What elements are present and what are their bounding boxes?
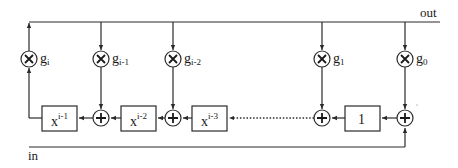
out-label: out	[420, 5, 437, 20]
multiplier-g1: g1	[314, 51, 345, 67]
delay-box-xi-1: xi-1	[42, 106, 77, 131]
adder-1	[93, 110, 109, 126]
tap-lines	[29, 22, 405, 118]
delay-box-1: 1	[345, 106, 380, 131]
multiplier-g0: g0	[397, 51, 428, 67]
svg-text:1: 1	[358, 112, 365, 127]
multiplier-label: g0	[416, 51, 428, 67]
speck	[416, 104, 417, 105]
multiplier-gi-2: gi-2	[165, 51, 201, 67]
adder-3	[314, 110, 330, 126]
in-label: in	[28, 148, 39, 163]
delay-box-xi-2: xi-2	[121, 106, 156, 131]
multiplier-gi-1: gi-1	[93, 51, 129, 67]
multiplier-label: g1	[333, 51, 345, 67]
multiplier-gi: gi	[21, 51, 50, 67]
multiplier-label: gi	[40, 51, 50, 67]
adder-2	[165, 110, 181, 126]
lfsr-diagram: out gi gi-1 gi-2 g1 g0	[0, 0, 458, 168]
out-bus	[29, 22, 440, 51]
multiplier-label: gi-1	[112, 51, 129, 67]
delay-box-xi-3: xi-3	[192, 106, 227, 131]
multiplier-label: gi-2	[184, 51, 201, 67]
adder-4	[397, 110, 413, 126]
